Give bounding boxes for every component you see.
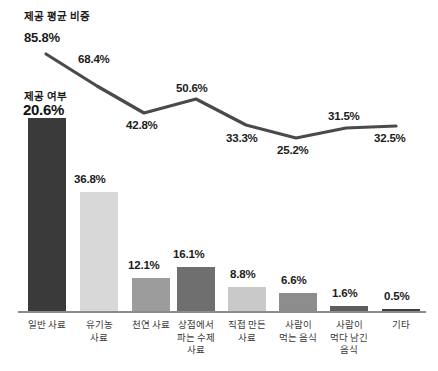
line-value-label-6: 31.5%	[328, 110, 360, 122]
line-value-label-3: 50.6%	[176, 82, 208, 94]
line-value-label-1: 68.4%	[78, 53, 110, 65]
line-value-label-4: 33.3%	[226, 132, 258, 144]
line-value-label-5: 25.2%	[277, 144, 309, 156]
line-value-label-2: 42.8%	[126, 119, 158, 131]
plot-area: 제공 평균 비중 85.8% 제공 여부 20.6% 36.8% 12.1% 1…	[0, 0, 438, 371]
line-series	[0, 0, 438, 371]
x-axis-line	[18, 311, 426, 313]
line-value-label-7: 32.5%	[374, 132, 406, 144]
category-label-7: 기타	[369, 319, 433, 332]
chart-container: 제공 평균 비중 85.8% 제공 여부 20.6% 36.8% 12.1% 1…	[0, 0, 438, 371]
